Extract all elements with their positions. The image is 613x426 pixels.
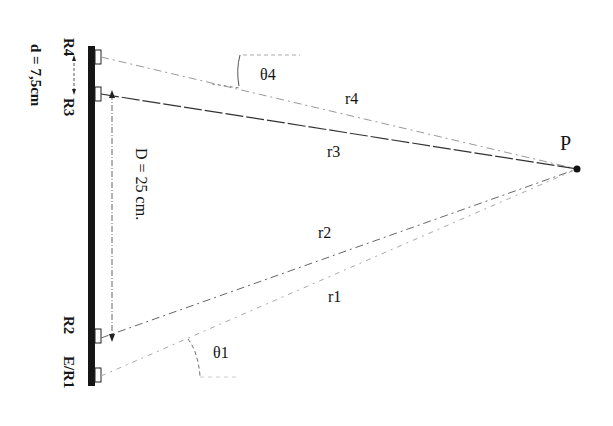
angle-theta4-label: θ4 [260,66,276,83]
dimension-d-large-label: D = 25 cm. [133,148,150,220]
dimension-d-small [72,55,76,95]
point-p [574,166,581,173]
ray-r2-label: r2 [318,224,331,241]
label-er1: E/R1 [61,356,77,389]
label-d-small: d = 7,5cm [28,44,44,107]
ray-r1 [101,169,577,376]
transducer-er1 [95,368,101,382]
point-p-label: P [560,132,571,154]
ray-r1-label: r1 [328,288,341,305]
transducer-geometry-diagram: P r4 r3 r2 r1 θ4 θ1 D = 25 cm. R4 R3 d =… [0,0,613,426]
transducer-r2 [95,329,101,343]
transducer-bar [88,46,95,386]
label-r2: R2 [61,316,77,334]
ray-r2 [101,169,577,338]
dimension-d-large [109,90,115,342]
transducer-r3 [95,87,101,101]
transducer-r4 [95,50,101,64]
label-r4: R4 [61,38,77,57]
ray-r4-label: r4 [345,90,358,107]
label-r3: R3 [61,98,77,116]
angle-theta4 [212,55,300,88]
ray-r3-label: r3 [327,143,340,160]
angle-theta1-label: θ1 [213,344,229,361]
